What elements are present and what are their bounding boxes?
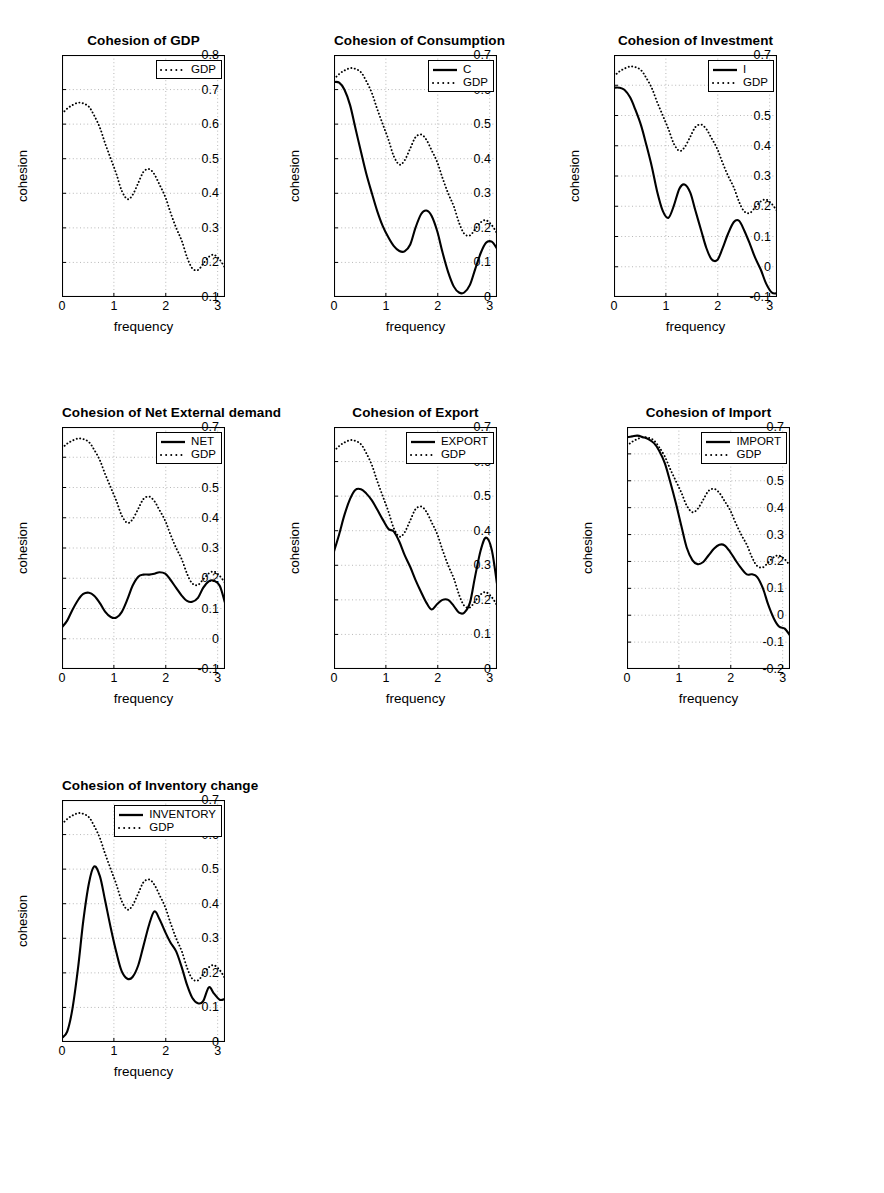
legend-item: C	[432, 63, 488, 76]
legend-line-sample-icon	[705, 436, 731, 448]
y-tick-label: 0	[777, 608, 784, 622]
legend-item: GDP	[160, 448, 216, 461]
panel-export: Cohesion of Export00.10.20.30.40.50.60.7…	[334, 405, 497, 669]
plot-area-consumption: 00.10.20.30.40.50.60.70123cohesionfreque…	[334, 55, 497, 297]
legend-item: GDP	[118, 821, 216, 834]
legend-consumption[interactable]: CGDP	[428, 60, 494, 92]
panel-investment: Cohesion of Investment-0.100.10.20.30.40…	[614, 33, 777, 297]
legend-label: NET	[191, 435, 214, 448]
y-tick-label: 0.4	[767, 501, 784, 515]
legend-label: GDP	[149, 821, 174, 834]
legend-net-external-demand[interactable]: NETGDP	[156, 432, 222, 464]
legend-item: GDP	[160, 63, 216, 76]
panel-title-inventory-change: Cohesion of Inventory change	[62, 778, 225, 800]
y-axis-label: cohesion	[15, 895, 30, 947]
y-axis-label: cohesion	[15, 150, 30, 202]
legend-item: I	[712, 63, 768, 76]
legend-line-sample-icon	[432, 77, 458, 89]
y-tick-label: 0.1	[754, 230, 771, 244]
legend-line-sample-icon	[160, 436, 186, 448]
legend-label: C	[463, 63, 471, 76]
x-tick-label: 1	[110, 299, 117, 313]
axes-frame	[63, 56, 225, 297]
legend-investment[interactable]: IGDP	[708, 60, 774, 92]
y-tick-label: -0.1	[762, 635, 784, 649]
x-tick-label: 1	[110, 1044, 117, 1058]
y-tick-label: 0.6	[202, 117, 219, 131]
legend-label: GDP	[191, 448, 216, 461]
series-gdp	[334, 440, 497, 608]
x-tick-label: 3	[214, 671, 221, 685]
y-tick-label: 0.7	[202, 83, 219, 97]
y-tick-label: 0.5	[754, 109, 771, 123]
series-i	[614, 88, 777, 294]
legend-gdp[interactable]: GDP	[156, 60, 222, 79]
y-axis-label: cohesion	[15, 522, 30, 574]
y-tick-label: 0.2	[474, 221, 491, 235]
legend-line-sample-icon	[705, 449, 731, 461]
legend-label: GDP	[191, 63, 216, 76]
x-tick-label: 0	[331, 299, 338, 313]
x-tick-label: 3	[214, 1044, 221, 1058]
x-tick-label: 0	[624, 671, 631, 685]
plot-area-investment: -0.100.10.20.30.40.50.60.70123cohesionfr…	[614, 55, 777, 297]
y-axis-label: cohesion	[287, 150, 302, 202]
y-tick-label: 0.4	[754, 139, 771, 153]
legend-label: GDP	[736, 448, 761, 461]
plot-area-inventory-change: 00.10.20.30.40.50.60.70123cohesionfreque…	[62, 800, 225, 1042]
legend-line-sample-icon	[410, 449, 436, 461]
y-tick-label: 0.3	[474, 558, 491, 572]
cohesion-figure: Cohesion of GDP0.10.20.30.40.50.60.70.80…	[0, 0, 884, 1193]
plot-area-import: -0.2-0.100.10.20.30.40.50.60.70123cohesi…	[627, 427, 790, 669]
y-tick-label: 0.3	[474, 186, 491, 200]
x-axis-label: frequency	[62, 1064, 225, 1079]
series-inventory	[62, 866, 225, 1038]
legend-line-sample-icon	[118, 822, 144, 834]
legend-inventory-change[interactable]: INVENTORYGDP	[114, 805, 222, 837]
y-tick-label: 0.1	[767, 581, 784, 595]
y-axis-label: cohesion	[580, 522, 595, 574]
panel-title-consumption: Cohesion of Consumption	[334, 33, 497, 55]
x-tick-label: 2	[162, 299, 169, 313]
y-tick-label: 0.2	[767, 554, 784, 568]
x-axis-label: frequency	[614, 319, 777, 334]
y-tick-label: 0.1	[202, 1000, 219, 1014]
legend-label: GDP	[463, 76, 488, 89]
legend-item: GDP	[410, 448, 488, 461]
legend-line-sample-icon	[160, 449, 186, 461]
y-tick-label: 0	[764, 260, 771, 274]
series-gdp	[334, 68, 497, 236]
x-tick-label: 2	[727, 671, 734, 685]
legend-line-sample-icon	[410, 436, 436, 448]
panel-title-investment: Cohesion of Investment	[614, 33, 777, 55]
x-tick-label: 3	[486, 671, 493, 685]
grid-lines	[62, 55, 225, 297]
panel-import: Cohesion of Import-0.2-0.100.10.20.30.40…	[627, 405, 790, 669]
y-tick-label: 0.4	[202, 897, 219, 911]
panel-gdp: Cohesion of GDP0.10.20.30.40.50.60.70.80…	[62, 33, 225, 297]
panel-consumption: Cohesion of Consumption00.10.20.30.40.50…	[334, 33, 497, 297]
legend-item: INVENTORY	[118, 808, 216, 821]
y-tick-label: 0.2	[754, 199, 771, 213]
panel-inventory-change: Cohesion of Inventory change00.10.20.30.…	[62, 778, 225, 1042]
x-tick-label: 2	[162, 671, 169, 685]
legend-export[interactable]: EXPORTGDP	[406, 432, 494, 464]
legend-item: NET	[160, 435, 216, 448]
y-tick-label: 0.1	[202, 602, 219, 616]
y-tick-label: 0.5	[202, 481, 219, 495]
y-axis-label: cohesion	[567, 150, 582, 202]
legend-label: EXPORT	[441, 435, 488, 448]
x-tick-label: 1	[382, 299, 389, 313]
legend-line-sample-icon	[712, 77, 738, 89]
x-axis-label: frequency	[334, 691, 497, 706]
x-tick-label: 0	[59, 1044, 66, 1058]
y-tick-label: 0.3	[202, 221, 219, 235]
x-axis-label: frequency	[627, 691, 790, 706]
legend-import[interactable]: IMPORTGDP	[701, 432, 787, 464]
legend-label: GDP	[743, 76, 768, 89]
series-import	[627, 436, 790, 636]
x-tick-label: 3	[779, 671, 786, 685]
x-tick-label: 2	[434, 671, 441, 685]
y-tick-label: 0.3	[202, 541, 219, 555]
legend-line-sample-icon	[160, 64, 186, 76]
